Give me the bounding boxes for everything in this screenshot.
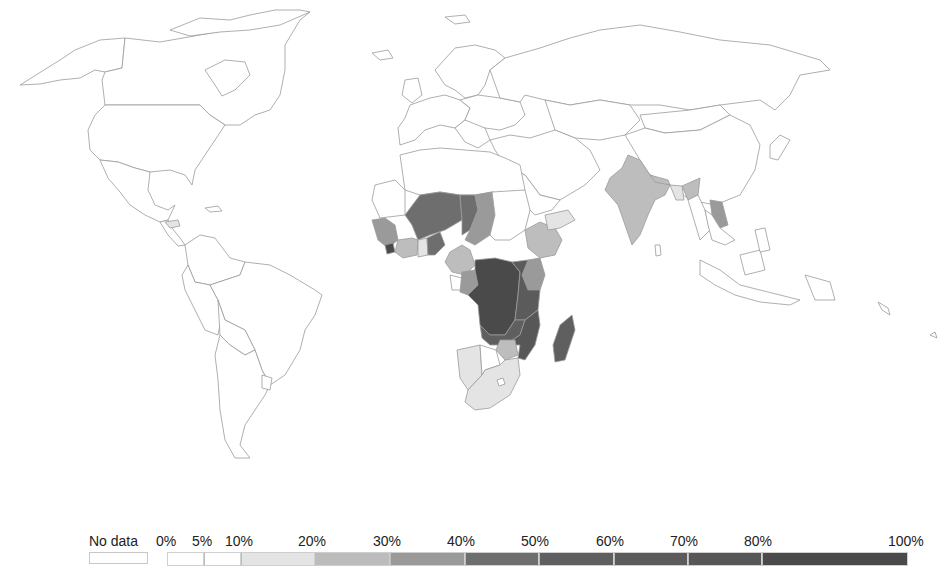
japan xyxy=(770,135,790,160)
legend-color-segment xyxy=(614,552,688,566)
pacific-islands-2 xyxy=(930,332,937,338)
legend-no-data-swatch xyxy=(89,552,148,564)
senegal-guinea xyxy=(372,218,398,248)
legend-color-segment xyxy=(315,552,390,566)
sudan xyxy=(490,190,530,240)
sierra-leone-liberia xyxy=(385,243,395,254)
cuba xyxy=(205,206,222,212)
mauritania-western-sahara xyxy=(372,180,405,218)
legend-tick-label: 30% xyxy=(373,533,401,549)
legend-tick-label: 20% xyxy=(298,533,326,549)
legend-tick-label: 100% xyxy=(888,533,924,549)
philippines xyxy=(755,228,770,252)
uruguay xyxy=(262,375,272,390)
north-america xyxy=(20,10,310,246)
car-drc xyxy=(468,258,520,335)
uk-ireland xyxy=(402,78,422,103)
ghana xyxy=(418,238,428,257)
legend-no-data-label: No data xyxy=(89,533,138,549)
world-map xyxy=(0,0,951,520)
sri-lanka xyxy=(655,245,661,256)
legend-tick-label: 5% xyxy=(192,533,212,549)
somalia xyxy=(545,210,575,230)
legend-tick-label: 10% xyxy=(225,533,253,549)
madagascar xyxy=(553,315,575,362)
legend-tick-label: 50% xyxy=(521,533,549,549)
legend-tick-label: 70% xyxy=(670,533,698,549)
legend-tick-label: 80% xyxy=(744,533,772,549)
legend-tick-label: 0% xyxy=(156,533,176,549)
lesotho xyxy=(497,378,505,386)
zimbabwe xyxy=(496,340,518,360)
borneo xyxy=(740,250,765,275)
mali xyxy=(405,192,462,240)
legend-tick-label: 60% xyxy=(596,533,624,549)
legend-color-segment xyxy=(241,552,315,566)
new-guinea xyxy=(805,275,835,300)
oceania xyxy=(878,302,937,338)
legend-color-segment xyxy=(688,552,762,566)
legend-color-segment xyxy=(390,552,465,566)
svalbard xyxy=(445,15,470,24)
legend-color-segment xyxy=(762,552,908,566)
cote-divoire xyxy=(395,238,418,258)
south-america xyxy=(182,235,322,458)
legend-color-segment xyxy=(539,552,614,566)
western-europe xyxy=(398,95,470,145)
legend-color-segment xyxy=(465,552,539,566)
legend-color-segment xyxy=(204,552,241,566)
iceland xyxy=(372,50,393,60)
bangladesh xyxy=(670,185,684,200)
pacific-islands xyxy=(878,302,890,315)
russia xyxy=(490,25,830,110)
legend-tick-label: 40% xyxy=(447,533,475,549)
legend-color-segment xyxy=(167,552,204,566)
